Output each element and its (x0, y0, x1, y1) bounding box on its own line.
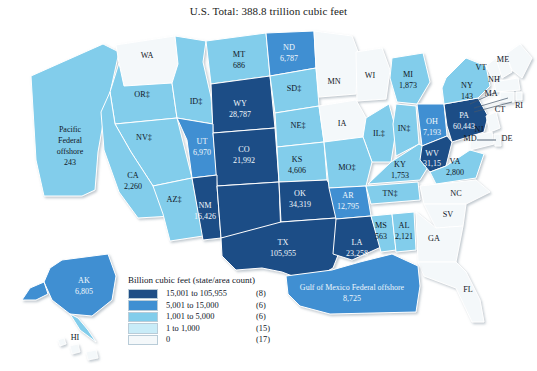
label-nv: NV‡ (136, 133, 152, 142)
legend-item: 1 to 1,000 (15) (128, 323, 333, 335)
label-de: DE (502, 134, 513, 143)
legend-label-2: 5,001 to 15,000 (166, 301, 256, 310)
gulf-offshore-value: 8,725 (343, 294, 361, 303)
legend-count-1: (8) (256, 289, 266, 298)
label-sd: SD‡ (287, 84, 302, 93)
state-ak (22, 254, 116, 342)
label-nd: ND (283, 43, 295, 52)
legend-swatch-2 (128, 300, 158, 311)
label-ut: UT (197, 137, 208, 146)
label-il: IL‡ (373, 129, 385, 138)
label-tn: TN‡ (382, 189, 397, 198)
value-pa: 60,443 (453, 122, 475, 131)
state-mn (314, 31, 358, 97)
legend-count-3: (6) (256, 312, 266, 321)
value-ms: 563 (375, 232, 387, 241)
state-fl (418, 262, 484, 322)
label-al: AL (399, 221, 410, 230)
legend-swatch-3 (128, 312, 158, 323)
label-id: ID‡ (190, 97, 203, 106)
state-ct (500, 92, 514, 102)
value-al: 2,121 (395, 232, 413, 241)
pacific-offshore-line-3: offshore (57, 147, 84, 156)
value-wv: 31,15 (423, 159, 441, 168)
legend-label-1: 15,001 to 105,955 (166, 289, 256, 298)
label-ct: CT (495, 105, 505, 114)
state-nj (486, 112, 500, 132)
label-ak: AK (78, 276, 90, 285)
value-ut: 6,970 (193, 148, 211, 157)
legend-count-5: (17) (256, 335, 270, 344)
legend-swatch-5 (128, 335, 158, 346)
label-nc: NC (450, 189, 462, 198)
label-ar: AR (342, 191, 354, 200)
value-ak: 6,805 (75, 287, 93, 296)
label-ne: NE‡ (290, 121, 305, 130)
value-ks: 4,606 (288, 166, 306, 175)
legend-item: 5,001 to 15,000 (6) (128, 300, 333, 312)
label-va: VA (450, 157, 461, 166)
label-ks: KS (292, 155, 303, 164)
legend-item: 0 (17) (128, 334, 333, 346)
legend-item: 15,001 to 105,955 (8) (128, 288, 333, 300)
value-mi: 1,873 (399, 81, 417, 90)
label-ia: IA (338, 119, 347, 128)
value-oh: 7,193 (423, 128, 441, 137)
label-mn: MN (327, 77, 340, 86)
label-in: IN‡ (398, 124, 411, 133)
value-la: 23,258 (346, 249, 368, 258)
value-tx: 105,955 (270, 249, 296, 258)
legend-swatch-1 (128, 289, 158, 300)
label-ny: NY (461, 81, 473, 90)
label-me: ME (497, 55, 509, 64)
label-wi: WI (365, 71, 376, 80)
label-fl: FL (463, 285, 473, 294)
label-ri: RI (515, 101, 523, 110)
label-ma: MA (484, 89, 497, 98)
value-co: 21,992 (233, 156, 255, 165)
legend-swatch-4 (128, 323, 158, 334)
label-mt: MT (233, 50, 245, 59)
legend-title: Billion cubic feet (state/area count) (128, 275, 333, 285)
label-ok: OK (294, 189, 306, 198)
label-ga: GA (428, 234, 440, 243)
label-hi: HI (71, 333, 80, 342)
value-ca: 2,260 (124, 182, 142, 191)
legend-label-5: 0 (166, 335, 256, 344)
label-vt: VT (476, 63, 487, 72)
state-wa (116, 36, 178, 86)
label-or: OR‡ (134, 90, 149, 99)
pacific-offshore-value: 243 (64, 158, 76, 167)
label-sc: SV (443, 210, 454, 219)
label-nh: NH (488, 75, 500, 84)
label-oh: OH (426, 117, 438, 126)
legend-count-4: (15) (256, 324, 270, 333)
legend-label-3: 1,001 to 5,000 (166, 312, 256, 321)
label-la: LA (352, 238, 363, 247)
legend-label-4: 1 to 1,000 (166, 324, 256, 333)
map-legend: Billion cubic feet (state/area count) 15… (128, 275, 333, 346)
value-ky: 1,753 (391, 171, 409, 180)
value-nm: 16,426 (194, 212, 216, 221)
label-ms: MS (375, 221, 387, 230)
value-ok: 34,319 (289, 200, 311, 209)
value-mt: 686 (233, 61, 245, 70)
label-tx: TX (278, 238, 289, 247)
label-nj: NJ (474, 125, 484, 134)
value-ny: 143 (461, 92, 473, 101)
label-mi: MI (403, 70, 413, 79)
legend-count-2: (6) (256, 301, 266, 310)
pacific-offshore-line-2: Federal (58, 136, 83, 145)
label-az: AZ‡ (166, 195, 181, 204)
label-co: CO (238, 145, 249, 154)
state-ri (516, 92, 522, 100)
value-va: 2,800 (446, 168, 464, 177)
value-nd: 6,787 (280, 54, 298, 63)
value-wy: 28,787 (229, 110, 251, 119)
label-ky: KY (394, 160, 406, 169)
label-wv: WV (425, 149, 439, 158)
legend-item: 1,001 to 5,000 (6) (128, 311, 333, 323)
label-ca: CA (127, 171, 138, 180)
label-pa: PA (459, 111, 469, 120)
label-md: MD (463, 134, 476, 143)
